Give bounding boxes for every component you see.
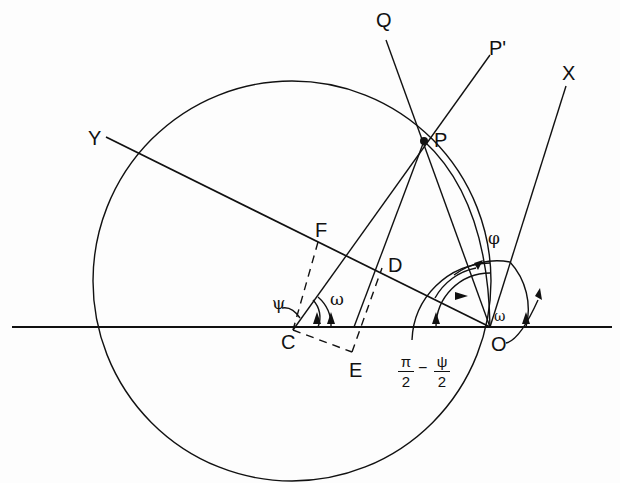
circle bbox=[93, 81, 491, 481]
label-minus: − bbox=[418, 360, 427, 376]
label-D: D bbox=[388, 255, 402, 275]
label-O: O bbox=[491, 334, 507, 354]
geometry-diagram: Q P' X Y P F D C E O ψ ω ω φ π 2 − ψ 2 bbox=[0, 0, 620, 483]
label-P-prime: P' bbox=[489, 38, 506, 58]
line-OX bbox=[490, 86, 566, 327]
dashed-FC bbox=[293, 242, 318, 330]
arc-pi-half bbox=[436, 273, 490, 327]
dashed-ED bbox=[352, 268, 382, 352]
dashed-CE bbox=[293, 330, 352, 352]
line-YO bbox=[106, 137, 490, 327]
fraction-psi-over-2: ψ 2 bbox=[434, 354, 450, 389]
label-omega-O: ω bbox=[494, 309, 505, 323]
line-PE bbox=[354, 141, 424, 327]
arc-omega-O bbox=[506, 300, 538, 343]
label-omega-C: ω bbox=[330, 291, 344, 308]
label-Y: Y bbox=[88, 128, 101, 148]
point-P bbox=[420, 137, 428, 145]
label-Q: Q bbox=[376, 10, 392, 30]
label-psi: ψ bbox=[272, 295, 285, 312]
label-X: X bbox=[562, 63, 575, 83]
label-F: F bbox=[315, 220, 327, 240]
diagram-lines bbox=[0, 0, 620, 483]
label-phi: φ bbox=[488, 230, 500, 247]
label-P: P bbox=[434, 130, 447, 150]
fraction-pi-over-2: π 2 bbox=[398, 354, 414, 389]
label-C: C bbox=[281, 332, 295, 352]
label-E: E bbox=[349, 360, 362, 380]
line-CP-prime bbox=[293, 55, 490, 330]
